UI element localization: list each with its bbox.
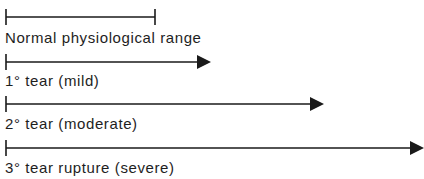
- mild-tear-label: 1° tear (mild): [5, 72, 99, 89]
- severe-tear-label: 3° tear rupture (severe): [5, 159, 175, 176]
- severe-tear-arrow: [6, 140, 424, 156]
- normal-range-label: Normal physiological range: [5, 29, 202, 46]
- moderate-tear-label: 2° tear (moderate): [5, 115, 138, 132]
- mild-tear-arrow: [6, 54, 211, 70]
- moderate-tear-arrow: [6, 96, 324, 112]
- normal-range-bar: [6, 9, 155, 25]
- severity-range-diagram: [0, 0, 424, 179]
